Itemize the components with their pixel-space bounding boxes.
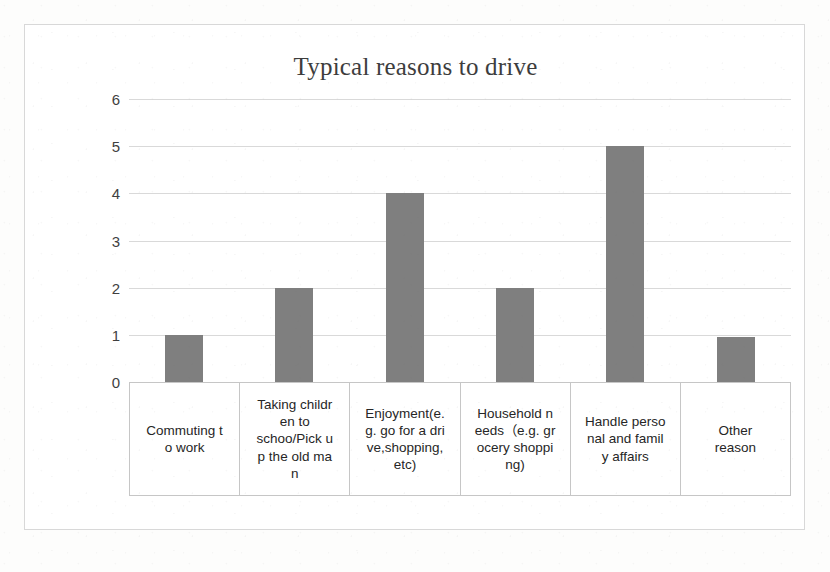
y-tick-label-3: 3 <box>112 232 120 249</box>
category-cell: Commuting t o work <box>130 383 240 495</box>
category-cell: Household n eeds（e.g. gr ocery shoppi ng… <box>461 383 571 495</box>
chart-title: Typical reasons to drive <box>25 53 806 81</box>
y-tick-label-4: 4 <box>112 185 120 202</box>
bar[interactable] <box>606 146 644 382</box>
bar[interactable] <box>386 193 424 382</box>
category-axis-table: Commuting t o workTaking childr en to sc… <box>129 382 791 496</box>
category-cell: Enjoyment(e. g. go for a dri ve,shopping… <box>350 383 460 495</box>
category-label: Enjoyment(e. g. go for a dri ve,shopping… <box>365 405 445 474</box>
category-cell: Taking childr en to schoo/Pick u p the o… <box>240 383 350 495</box>
y-tick-label-5: 5 <box>112 138 120 155</box>
bar-slot <box>681 99 791 382</box>
y-tick-label-6: 6 <box>112 91 120 108</box>
bar-slot <box>239 99 349 382</box>
chart-frame: Typical reasons to drive 6543210 Commuti… <box>24 24 805 530</box>
category-label: Commuting t o work <box>146 422 223 456</box>
scanned-page: Typical reasons to drive 6543210 Commuti… <box>0 0 830 572</box>
category-label: Other reason <box>715 422 756 456</box>
bar-slot <box>129 99 239 382</box>
bar[interactable] <box>275 288 313 382</box>
y-tick-label-1: 1 <box>112 326 120 343</box>
category-label: Taking childr en to schoo/Pick u p the o… <box>256 396 333 482</box>
category-cell: Other reason <box>681 383 791 495</box>
bar-slot <box>570 99 680 382</box>
y-tick-label-0: 0 <box>112 374 120 391</box>
bar-slot <box>350 99 460 382</box>
bar-series <box>129 99 791 382</box>
bar[interactable] <box>717 337 755 382</box>
y-tick-label-2: 2 <box>112 279 120 296</box>
bar[interactable] <box>165 335 203 382</box>
bar[interactable] <box>496 288 534 382</box>
category-label: Household n eeds（e.g. gr ocery shoppi ng… <box>475 405 556 474</box>
category-cell: Handle perso nal and famil y affairs <box>571 383 681 495</box>
category-label: Handle perso nal and famil y affairs <box>585 413 665 464</box>
bar-slot <box>460 99 570 382</box>
plot-area: 6543210 <box>129 99 791 382</box>
